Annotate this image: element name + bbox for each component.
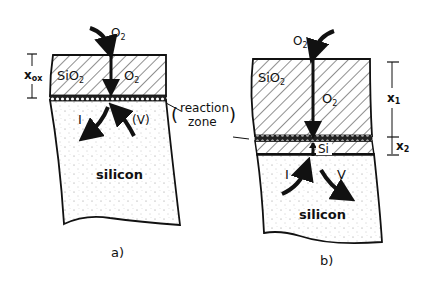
o2-inflow-arrow-b	[314, 31, 334, 52]
reaction-zone-a	[50, 95, 166, 101]
caption-a: a)	[111, 245, 124, 260]
silicon-substrate-b	[257, 154, 382, 243]
x2-label-b: x2	[396, 139, 409, 154]
oxidation-diagram: O2 SiO2 O2 xox I (V) silicon a) ( ) reac…	[0, 0, 427, 289]
svg-text:(: (	[171, 104, 178, 125]
vacancy-label-a: (V)	[132, 113, 150, 127]
interstitial-label-a: I	[78, 112, 82, 127]
si-layer-label-b: Si	[318, 142, 329, 156]
o2-inflow-arrow-a	[90, 28, 109, 48]
panel-b: O2 SiO2 O2 Si x1 x2 I V silicon b)	[251, 31, 409, 268]
substrate-label-b: silicon	[299, 207, 346, 222]
reaction-zone-label: ( ) reaction zone	[166, 101, 249, 139]
svg-text:reaction: reaction	[180, 101, 229, 115]
gas-label-b: O2	[293, 34, 308, 50]
caption-b: b)	[320, 253, 333, 268]
panel-a: O2 SiO2 O2 xox I (V) silicon a)	[20, 26, 180, 260]
silicon-substrate-a	[50, 100, 180, 225]
vacancy-label-b: V	[337, 167, 346, 182]
svg-text:zone: zone	[188, 115, 217, 129]
reaction-zone-b	[255, 135, 372, 141]
interstitial-label-b: I	[285, 167, 289, 182]
gas-label-a: O2	[111, 26, 126, 42]
substrate-label-a: silicon	[96, 167, 143, 182]
svg-text:): )	[229, 104, 236, 125]
